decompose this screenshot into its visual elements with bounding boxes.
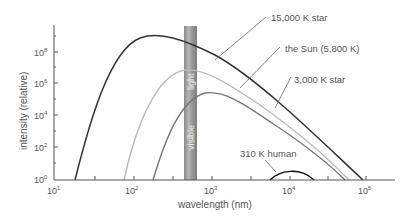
y-axis-label: intensity (relative): [18, 72, 29, 150]
svg-text:102: 102: [125, 185, 139, 196]
y-tick-labels: 108 106 104 102 100: [34, 47, 48, 185]
svg-text:101: 101: [47, 185, 61, 196]
band-label-light: light: [186, 73, 196, 90]
x-axis-label: wavelength (nm): [177, 199, 252, 210]
svg-text:108: 108: [34, 47, 48, 58]
svg-text:106: 106: [34, 78, 48, 89]
svg-text:100: 100: [34, 174, 48, 185]
svg-text:103: 103: [204, 185, 218, 196]
annotation-human: 310 K human: [240, 148, 297, 159]
y-ticks: [54, 36, 58, 163]
leader-human: [265, 160, 276, 172]
annotation-15000k: 15,000 K star: [271, 12, 328, 23]
leader-sun: [240, 47, 280, 88]
band-label-visible: visible: [186, 125, 196, 150]
visible-light-band: [184, 26, 197, 180]
annotation-3000k: 3,000 K star: [294, 74, 345, 85]
leader-3000k: [275, 77, 291, 108]
svg-text:105: 105: [358, 185, 372, 196]
annotation-sun: the Sun (5,800 K): [285, 43, 359, 54]
x-tick-labels: 101 102 103 104 105: [47, 185, 372, 196]
svg-text:102: 102: [34, 142, 48, 153]
svg-text:104: 104: [34, 110, 48, 121]
svg-text:104: 104: [282, 185, 296, 196]
blackbody-chart: light visible 108 106 104 102 100 101 10…: [0, 0, 405, 219]
x-ticks: [95, 176, 366, 180]
curve-human: [270, 171, 314, 180]
leader-15000k: [215, 17, 266, 60]
